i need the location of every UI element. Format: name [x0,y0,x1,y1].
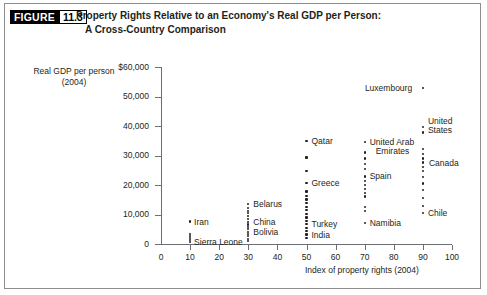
data-point [364,184,366,186]
country-label: Spain [370,172,392,182]
x-tick-mark [336,245,337,250]
data-point [364,210,366,212]
country-label: States [428,126,452,136]
x-tick-label: 0 [146,252,176,262]
x-tick-label: 40 [262,252,292,262]
data-point [422,153,424,155]
country-label: Luxembourg [365,84,412,94]
data-point [422,182,424,184]
data-point [247,207,249,209]
data-point [305,195,307,197]
country-label: Chile [428,209,447,219]
data-point [364,168,366,170]
x-tick-label: 70 [350,252,380,262]
data-point [364,151,366,153]
data-point [422,197,424,199]
data-point [364,195,366,197]
y-tick-mark [155,185,161,186]
data-point [422,161,424,163]
data-point [305,237,307,239]
data-point [364,157,366,159]
y-tick-label: 0 [89,240,149,249]
country-label: Iran [194,218,209,228]
x-tick-mark [248,245,249,250]
data-point [422,157,424,159]
x-axis-title-text: Index of property rights (2004) [305,265,419,275]
x-tick-label: 100 [437,252,467,262]
data-point [305,202,307,204]
data-point [422,205,424,207]
data-point [364,222,366,224]
data-point [364,175,366,177]
x-tick-label: 30 [233,252,263,262]
country-label: Belarus [253,200,282,210]
country-label: Canada [429,159,459,169]
data-point [305,190,307,192]
data-point [305,182,307,184]
data-point [364,188,366,190]
y-tick-label: 20,000 [89,181,149,190]
data-point [364,180,366,182]
data-point [422,212,424,214]
data-point [364,163,366,165]
x-tick-label: 90 [408,252,438,262]
country-label: Qatar [312,137,333,147]
y-tick-mark [155,215,161,216]
x-tick-mark [190,245,191,250]
x-tick-label: 80 [379,252,409,262]
x-tick-mark [452,245,453,250]
data-point [305,216,307,218]
data-point [305,223,307,225]
x-tick-label: 50 [292,252,322,262]
country-label: India [312,231,330,241]
data-point [422,126,424,128]
x-tick-mark [307,245,308,250]
x-tick-mark [277,245,278,250]
scatter-plot: Real GDP per person (2004) Index of prop… [5,4,482,290]
data-point [364,141,366,143]
country-label: Turkey [312,220,338,230]
country-label: Emirates [376,147,410,157]
y-tick-mark [155,126,161,127]
data-point [189,220,191,222]
data-point [305,209,307,211]
data-point [305,140,307,142]
data-point [422,189,424,191]
data-point [189,241,191,243]
data-point [422,166,424,168]
x-tick-label: 60 [321,252,351,262]
y-tick-mark [155,67,161,68]
x-tick-mark [394,245,395,250]
data-point [247,203,249,205]
data-point [305,213,307,215]
data-point [422,176,424,178]
x-tick-label: 20 [204,252,234,262]
x-tick-mark [423,245,424,250]
data-point [364,192,366,194]
data-point [305,206,307,208]
data-point [305,233,307,235]
data-point [247,215,249,217]
country-label: Bolivia [253,228,278,238]
data-point [305,170,307,172]
data-point [247,218,249,220]
y-tick-label: 10,000 [89,210,149,219]
x-axis-title: Index of property rights (2004) [305,265,419,275]
data-point [422,87,424,89]
data-point [305,198,307,200]
data-point [305,156,307,158]
x-tick-label: 10 [175,252,205,262]
data-point [422,148,424,150]
data-point [305,227,307,229]
data-point [247,240,249,242]
y-tick-label: $60,000 [89,63,149,72]
y-tick-label: 30,000 [89,151,149,160]
data-point [305,230,307,232]
country-label: Namibia [370,219,401,229]
y-tick-mark [155,244,161,245]
y-axis-line [161,67,162,245]
data-point [305,220,307,222]
figure-frame: FIGURE11.3 Property Rights Relative to a… [4,3,481,289]
y-tick-label: 40,000 [89,122,149,131]
data-point [422,131,424,133]
